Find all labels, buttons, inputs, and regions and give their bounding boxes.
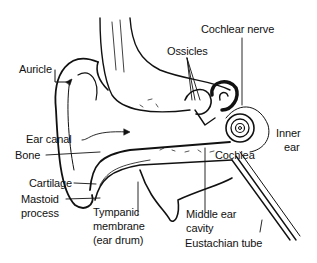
label-eustachian-tube: Eustachian tube [185,237,262,249]
label-inner-ear-1: Inner [276,127,301,139]
label-mastoid-1: Mastoid [21,193,59,205]
label-tympanic-3: (ear drum) [93,234,143,246]
label-bone: Bone [15,149,40,161]
label-ear-canal: Ear canal [26,133,72,145]
ear-anatomy-illustration [0,0,317,263]
label-tympanic-1: Tympanic [93,206,139,218]
label-auricle: Auricle [19,63,52,75]
label-cochlear-nerve: Cochlear nerve [201,23,274,35]
label-mastoid-2: process [21,207,59,219]
label-cochlea: Cochlea [215,149,255,161]
label-inner-ear-2: ear [284,141,300,153]
label-tympanic-2: membrane [93,220,145,232]
label-ossicles: Ossicles [167,45,208,57]
label-middle-ear-1: Middle ear [186,208,236,220]
label-middle-ear-2: cavity [186,222,214,234]
label-cartilage: Cartilage [29,177,72,189]
